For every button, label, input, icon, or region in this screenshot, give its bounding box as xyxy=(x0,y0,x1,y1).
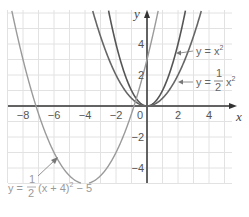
eq1-pointer xyxy=(180,51,193,53)
eq2-arrow-icon xyxy=(178,80,183,85)
y-tick-label: −4 xyxy=(131,162,144,174)
y-tick-label: 2 xyxy=(138,69,144,81)
eq2-numerator: 1 xyxy=(216,67,222,79)
y-axis-label: y xyxy=(132,6,140,21)
eq2-variable: x2 xyxy=(226,75,236,88)
grid-lines xyxy=(8,10,233,184)
coordinate-plane: x y −8−6−4−202442−2−4 y = x2 y = 1 2 x2 … xyxy=(0,0,249,217)
x-tick-label: −8 xyxy=(17,109,30,121)
eq3-body: (x + 4)2 − 5 xyxy=(38,181,92,194)
graph-figure: x y −8−6−4−202442−2−4 y = x2 y = 1 2 x2 … xyxy=(0,0,249,217)
x-tick-label: 2 xyxy=(175,109,181,121)
eq3-numerator: 1 xyxy=(29,173,35,185)
y-tick-label: 4 xyxy=(138,38,144,50)
eq2-denominator: 2 xyxy=(215,81,221,93)
x-tick-label: −2 xyxy=(110,109,123,121)
x-tick-label: 0 xyxy=(137,109,143,121)
eq3-denominator: 2 xyxy=(28,187,34,199)
eq2-prefix: y = xyxy=(196,76,211,88)
x-tick-label: −4 xyxy=(79,109,92,121)
y-tick-label: −2 xyxy=(131,131,144,143)
y-axis-arrow-icon xyxy=(144,10,150,18)
x-tick-label: 4 xyxy=(206,109,212,121)
eq1-label: y = x2 xyxy=(196,44,224,57)
eq3-prefix: y = xyxy=(8,182,23,194)
axes xyxy=(8,10,237,183)
curves xyxy=(12,11,201,183)
x-tick-label: −6 xyxy=(48,109,61,121)
x-axis-label: x xyxy=(235,109,242,124)
